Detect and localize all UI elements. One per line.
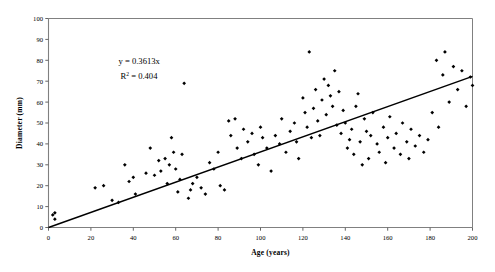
data-point	[437, 125, 441, 129]
data-point	[195, 175, 199, 179]
x-tick-label: 80	[215, 234, 222, 241]
data-point	[348, 138, 352, 142]
data-point	[176, 190, 180, 194]
data-point	[316, 119, 320, 123]
data-point	[388, 115, 392, 119]
data-point	[227, 119, 231, 123]
data-point	[102, 184, 106, 188]
data-point	[144, 171, 148, 175]
data-point	[329, 94, 333, 98]
data-point	[204, 192, 208, 196]
data-point	[191, 182, 195, 186]
data-point	[356, 92, 360, 96]
data-point	[322, 77, 326, 81]
data-point	[148, 146, 152, 150]
data-point	[331, 104, 335, 108]
data-point	[174, 167, 178, 171]
data-point	[399, 153, 403, 157]
data-point	[363, 117, 367, 121]
data-point	[369, 134, 373, 138]
data-point	[409, 127, 413, 131]
data-point	[170, 136, 174, 140]
y-tick-label: 30	[36, 161, 43, 168]
data-point	[326, 84, 330, 88]
x-tick-label: 140	[340, 234, 351, 241]
data-point	[163, 157, 167, 161]
data-point	[386, 136, 390, 140]
data-point	[375, 142, 379, 146]
data-point	[456, 88, 460, 92]
x-tick-label: 60	[172, 234, 179, 241]
x-tick-label: 200	[468, 234, 479, 241]
data-point	[401, 121, 405, 125]
data-point	[422, 150, 426, 154]
data-point	[333, 69, 337, 73]
data-point	[123, 163, 127, 167]
data-point	[199, 186, 203, 190]
data-point	[307, 50, 311, 54]
data-point	[259, 125, 263, 129]
x-tick-label: 120	[298, 234, 309, 241]
data-point	[460, 69, 464, 73]
data-point	[189, 188, 193, 192]
x-axis: 020406080100120140160180200	[47, 228, 478, 242]
x-tick-label: 160	[383, 234, 394, 241]
r-squared-label: R2 = 0.404	[120, 71, 158, 81]
data-point	[314, 88, 318, 92]
data-point	[320, 98, 324, 102]
data-point	[284, 150, 288, 154]
data-point	[394, 132, 398, 136]
data-point	[354, 104, 358, 108]
data-point	[384, 161, 388, 165]
x-tick-label: 20	[88, 234, 95, 241]
x-tick-label: 0	[47, 234, 51, 241]
data-point	[341, 109, 345, 113]
data-point	[172, 150, 176, 154]
y-axis: 0102030405060708090100	[33, 15, 48, 231]
data-point	[426, 138, 430, 142]
data-point	[435, 58, 439, 62]
data-point	[280, 117, 284, 121]
data-point	[405, 140, 409, 144]
data-point	[242, 127, 246, 131]
data-point	[216, 150, 220, 154]
data-point	[407, 157, 411, 161]
data-point	[261, 136, 265, 140]
data-point	[346, 146, 350, 150]
data-point	[127, 180, 131, 184]
data-point	[324, 113, 328, 117]
trendline	[49, 76, 473, 227]
data-point	[273, 134, 277, 138]
data-point	[131, 175, 135, 179]
data-point	[246, 140, 250, 144]
data-point	[339, 132, 343, 136]
data-point	[382, 125, 386, 129]
y-tick-label: 20	[36, 182, 43, 189]
data-point	[360, 163, 364, 167]
y-tick-label: 90	[36, 36, 43, 43]
data-point	[295, 140, 299, 144]
data-point	[182, 81, 186, 85]
data-point	[365, 130, 369, 134]
x-tick-label: 100	[256, 234, 267, 241]
y-tick-label: 10	[36, 203, 43, 210]
y-tick-label: 100	[33, 15, 44, 22]
data-point	[110, 198, 114, 202]
y-tick-label: 0	[40, 224, 44, 231]
data-point	[229, 134, 233, 138]
data-point	[153, 173, 157, 177]
data-point	[180, 153, 184, 157]
data-point	[297, 157, 301, 161]
y-axis-title: Diameter (mm)	[15, 97, 24, 149]
data-point	[430, 111, 434, 115]
data-point	[318, 134, 322, 138]
x-axis-title: Age (years)	[251, 248, 290, 257]
data-point	[167, 163, 171, 167]
data-point	[187, 196, 191, 200]
data-point	[218, 184, 222, 188]
data-point	[392, 146, 396, 150]
data-point	[312, 107, 316, 111]
y-tick-label: 80	[36, 57, 43, 64]
plot-frame	[49, 19, 473, 228]
data-point	[303, 111, 307, 115]
